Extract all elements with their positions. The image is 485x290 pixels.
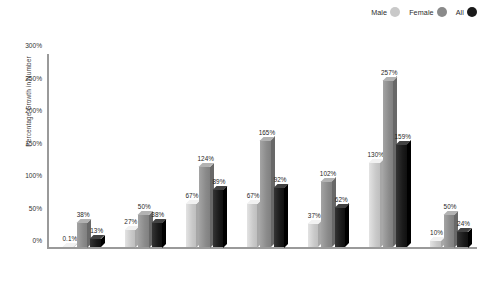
bar-group: 67%165%92% [247,36,285,247]
bar-body [138,215,149,248]
bar-face-front [396,144,407,247]
y-tick-label: 0% [32,237,42,244]
bar-body [335,207,346,247]
bar-group: 67%124%89% [186,36,224,247]
bar-face-front [274,188,285,248]
bar-chart: Male Female All Percentage Growth in Num… [0,0,485,290]
bar-face-front [90,239,101,247]
bar[interactable]: 38% [152,223,163,248]
y-tick-label: 200% [25,107,42,114]
bar-face-front [247,204,258,248]
bar-body [260,140,271,247]
y-tick-label: 150% [25,139,42,146]
y-tick-label: 50% [29,204,42,211]
bar-value-label: 0.1% [62,235,77,242]
bar-face-side [223,186,227,247]
bar-face-front [457,232,468,248]
bar-face-front [383,80,394,247]
bar-value-label: 27% [124,218,137,225]
legend-item-male: Male [371,7,400,17]
bar-face-side [468,228,472,247]
bar-value-label: 38% [77,211,90,218]
bar-body [308,223,319,247]
bar-value-label: 50% [138,203,151,210]
bar[interactable]: 165% [260,140,271,247]
bar-face-front [199,167,210,248]
bar[interactable]: 159% [396,144,407,247]
bar-value-label: 38% [151,211,164,218]
bar[interactable]: 62% [335,207,346,247]
bar-value-label: 159% [394,133,411,140]
bar-group: 0.1%38%13% [63,36,101,247]
plot-frame: 0%50%100%150%200%250%300% 0.1%38%13%27%5… [47,36,477,249]
bar-group: 27%50%38% [125,36,163,247]
bar-value-label: 89% [212,178,225,185]
bar-face-front [125,230,136,248]
bar-face-front [444,215,455,248]
bar[interactable]: 10% [430,241,441,248]
bar-face-front [430,241,441,248]
chart-legend: Male Female All [371,7,477,17]
bar-face-front [369,163,380,248]
bar-body [90,239,101,247]
bar[interactable]: 130% [369,163,380,248]
legend-item-all: All [456,7,477,17]
bar[interactable]: 50% [444,215,455,248]
bar[interactable]: 102% [321,181,332,247]
bar[interactable]: 38% [77,223,88,248]
bar-face-front [260,140,271,247]
bar-face-front [186,204,197,248]
bar-body [152,223,163,248]
bar-value-label: 130% [367,151,384,158]
bar-face-front [152,223,163,248]
y-tick-label: 300% [25,42,42,49]
bar-group: 10%50%24% [430,36,468,247]
bar-value-label: 37% [308,212,321,219]
bar[interactable]: 24% [457,232,468,248]
bar[interactable]: 92% [274,188,285,248]
y-tick-label: 250% [25,74,42,81]
bar-body [444,215,455,248]
bar-value-label: 165% [259,129,276,136]
bar[interactable]: 89% [213,190,224,248]
bar-face-front [308,223,319,247]
bar-body [199,167,210,248]
bar-body [186,204,197,248]
bar-value-label: 102% [320,170,337,177]
bar[interactable]: 67% [247,204,258,248]
bar-body [430,241,441,248]
bar-face-front [213,190,224,248]
bar-value-label: 13% [90,227,103,234]
y-tick-label: 100% [25,172,42,179]
bar-value-label: 67% [247,192,260,199]
bar-face-side [284,184,288,247]
bar[interactable]: 50% [138,215,149,248]
legend-swatch-male [390,7,400,17]
bar[interactable]: 257% [383,80,394,247]
bar-face-side [345,204,349,248]
bar-face-side [407,141,411,248]
bar-body [369,163,380,248]
plot-area: 0.1%38%13%27%50%38%67%124%89%67%165%92%3… [49,36,477,247]
legend-label-female: Female [409,8,434,17]
legend-swatch-all [467,7,477,17]
bar-value-label: 67% [185,192,198,199]
bar-face-side [162,219,166,247]
legend-swatch-female [437,7,447,17]
bar-body [274,188,285,248]
bar[interactable]: 124% [199,167,210,248]
bar[interactable]: 27% [125,230,136,248]
bar[interactable]: 67% [186,204,197,248]
bar[interactable]: 0.1% [63,246,74,247]
x-axis-line [47,247,477,249]
legend-label-male: Male [371,8,387,17]
bar-value-label: 257% [381,69,398,76]
bar-value-label: 62% [335,196,348,203]
bar[interactable]: 13% [90,239,101,247]
bar[interactable]: 37% [308,223,319,247]
bar-face-front [321,181,332,247]
bar-body [63,246,74,247]
bar-body [125,230,136,248]
bar-body [213,190,224,248]
bar-body [321,181,332,247]
